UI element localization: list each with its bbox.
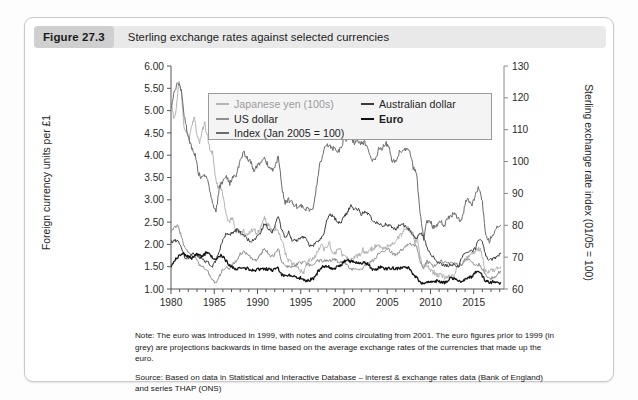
figure-title-bar: Figure 27.3 Sterling exchange rates agai… xyxy=(34,26,606,48)
legend-label-us-dollar: US dollar xyxy=(234,113,278,125)
svg-text:4.00: 4.00 xyxy=(144,150,164,161)
svg-text:1.00: 1.00 xyxy=(144,284,164,295)
svg-text:1980: 1980 xyxy=(160,297,183,308)
svg-text:2005: 2005 xyxy=(376,297,399,308)
legend-item-euro[interactable]: Euro xyxy=(361,112,456,127)
svg-text:60: 60 xyxy=(512,284,524,295)
svg-text:70: 70 xyxy=(512,252,524,263)
svg-text:2.50: 2.50 xyxy=(144,217,164,228)
svg-text:4.50: 4.50 xyxy=(144,128,164,139)
svg-text:100: 100 xyxy=(512,156,529,167)
svg-text:1.50: 1.50 xyxy=(144,261,164,272)
svg-text:1985: 1985 xyxy=(203,297,226,308)
legend-column-left: Japanese yen (100s) US dollar Index (Jan… xyxy=(216,97,344,141)
legend-swatch-index xyxy=(216,132,229,134)
svg-text:80: 80 xyxy=(512,220,524,231)
figure-notes: Note: The euro was introduced in 1999, w… xyxy=(135,330,555,395)
legend-item-us-dollar[interactable]: US dollar xyxy=(216,112,344,127)
svg-text:2000: 2000 xyxy=(333,297,356,308)
legend-label-japanese-yen: Japanese yen (100s) xyxy=(234,98,334,110)
legend-column-right: Australian dollar Euro xyxy=(361,97,456,126)
legend-label-index: Index (Jan 2005 = 100) xyxy=(234,127,344,139)
legend-item-australian-dollar[interactable]: Australian dollar xyxy=(361,97,456,112)
legend-swatch-japanese-yen xyxy=(216,103,229,105)
y-axis-left-title: Foreign currency units per £1 xyxy=(41,98,52,268)
svg-text:1990: 1990 xyxy=(246,297,269,308)
svg-text:130: 130 xyxy=(512,61,529,72)
figure-caption: Sterling exchange rates against selected… xyxy=(128,31,389,43)
svg-text:2.00: 2.00 xyxy=(144,239,164,250)
svg-text:6.00: 6.00 xyxy=(144,61,164,72)
legend-swatch-australian-dollar xyxy=(361,103,374,105)
chart-plot-area: 1.001.502.002.503.003.504.004.505.005.50… xyxy=(25,54,615,324)
figure-source-text: Source: Based on data in Statistical and… xyxy=(135,372,555,395)
screenshot-root: Figure 27.3 Sterling exchange rates agai… xyxy=(0,0,638,400)
chart-legend: Japanese yen (100s) US dollar Index (Jan… xyxy=(208,93,492,140)
svg-text:3.00: 3.00 xyxy=(144,194,164,205)
y-axis-right-title: Sterling exchange rate index (01/05 = 10… xyxy=(583,69,594,297)
legend-label-australian-dollar: Australian dollar xyxy=(379,98,456,110)
svg-text:120: 120 xyxy=(512,92,529,103)
svg-text:5.50: 5.50 xyxy=(144,83,164,94)
figure-card: Figure 27.3 Sterling exchange rates agai… xyxy=(24,17,614,382)
legend-item-japanese-yen[interactable]: Japanese yen (100s) xyxy=(216,97,344,112)
legend-label-euro: Euro xyxy=(379,113,403,125)
svg-text:1995: 1995 xyxy=(289,297,312,308)
figure-note-text: Note: The euro was introduced in 1999, w… xyxy=(135,330,555,365)
svg-text:110: 110 xyxy=(512,124,529,135)
figure-number: Figure 27.3 xyxy=(34,26,114,48)
svg-text:90: 90 xyxy=(512,188,524,199)
svg-text:2015: 2015 xyxy=(462,297,485,308)
legend-item-index[interactable]: Index (Jan 2005 = 100) xyxy=(216,126,344,141)
legend-swatch-us-dollar xyxy=(216,118,229,120)
legend-swatch-euro xyxy=(361,118,374,120)
svg-text:3.50: 3.50 xyxy=(144,172,164,183)
svg-text:5.00: 5.00 xyxy=(144,105,164,116)
svg-text:2010: 2010 xyxy=(419,297,442,308)
